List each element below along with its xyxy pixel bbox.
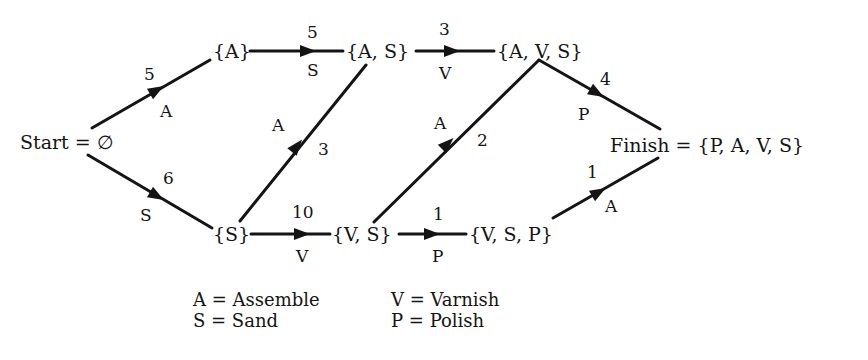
edge-task: A: [605, 196, 617, 216]
arrowheads: [147, 45, 609, 240]
edge-task: V: [439, 63, 451, 83]
node-a: {A}: [213, 40, 251, 62]
edge-task: S: [307, 60, 319, 80]
edge-task: A: [434, 113, 446, 133]
edge-task: V: [296, 246, 308, 266]
edge-vs-avs: [374, 60, 539, 222]
node-as: {A, S}: [346, 40, 409, 62]
state-transition-diagram: Start = ∅ {A} {A, S} {A, V, S} {S} {V, S…: [0, 0, 868, 360]
node-avs: {A, V, S}: [497, 40, 582, 62]
node-start: Start = ∅: [20, 131, 114, 153]
edge-task: P: [578, 104, 589, 124]
arrow-icon: [294, 228, 310, 240]
legend-polish: P = Polish: [391, 310, 484, 331]
edge-task: A: [272, 115, 284, 135]
node-finish: Finish = {P, A, V, S}: [610, 134, 804, 156]
edge-weight: 6: [163, 168, 174, 188]
edge-task: S: [140, 205, 152, 225]
edge-weight: 1: [433, 204, 444, 224]
arrow-icon: [287, 136, 306, 156]
edge-weight: 4: [600, 69, 611, 89]
legend-varnish: V = Varnish: [391, 289, 499, 310]
edge-weight: 3: [318, 139, 329, 159]
legend-assemble: A = Assemble: [193, 289, 320, 310]
edge-weight: 1: [587, 162, 598, 182]
edge-weight: 3: [439, 19, 450, 39]
node-s: {S}: [213, 223, 250, 245]
edge-task: A: [160, 101, 172, 121]
node-vs: {V, S}: [332, 223, 392, 245]
edge-weight: 5: [144, 64, 155, 84]
edge-weight: 5: [307, 22, 318, 42]
arrow-icon: [147, 187, 167, 205]
arrow-icon: [444, 45, 460, 57]
edge-weight: 10: [292, 202, 314, 222]
edge-task: P: [432, 246, 443, 266]
legend-sand: S = Sand: [193, 310, 278, 331]
edge-s-as: [240, 65, 366, 221]
arrow-icon: [424, 228, 440, 240]
arrow-icon: [300, 45, 316, 57]
edge-weight: 2: [477, 130, 488, 150]
node-vsp: {V, S, P}: [469, 223, 553, 245]
